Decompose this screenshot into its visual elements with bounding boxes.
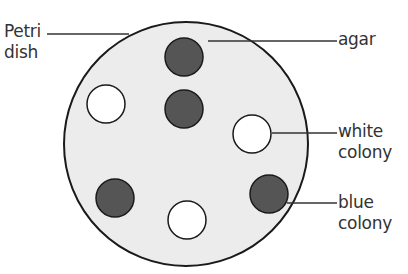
white-colony-label-line1: white	[338, 121, 392, 142]
blue-colony	[96, 179, 134, 217]
white-colony	[168, 201, 206, 239]
white-colony-label: white colony	[338, 121, 392, 163]
petri-dish-label-line1: Petri	[4, 21, 41, 42]
white-colony-label-line2: colony	[338, 142, 392, 163]
blue-colony	[250, 175, 288, 213]
agar-label: agar	[338, 29, 375, 50]
blue-colony-label-line2: colony	[338, 213, 392, 234]
blue-colony	[165, 38, 203, 76]
white-colony	[233, 115, 271, 153]
agar-label-text: agar	[338, 29, 375, 50]
petri-dish-label-line2: dish	[4, 42, 41, 63]
white-colony	[87, 85, 125, 123]
blue-colony-label-line1: blue	[338, 192, 392, 213]
blue-colony-label: blue colony	[338, 192, 392, 234]
petri-dish-label: Petri dish	[4, 21, 41, 63]
blue-colony	[165, 90, 203, 128]
